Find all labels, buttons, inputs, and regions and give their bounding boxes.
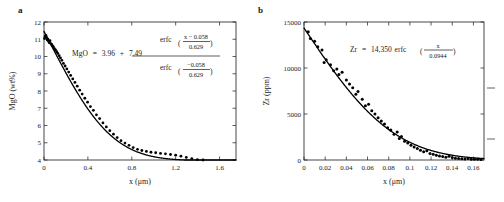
data-point — [159, 152, 162, 155]
tick-label: 0.02 — [319, 164, 332, 172]
panel-b-equation: Zr = 14,350 erfc ( x 0.0944 ) — [350, 42, 456, 59]
tick-label: 10 — [34, 53, 42, 61]
data-point — [429, 152, 432, 155]
data-point — [335, 67, 338, 70]
tick-label: 0 — [42, 164, 46, 172]
tick-label: 1.6 — [215, 164, 224, 172]
panel-a-eq-num-paren-close: ) — [210, 39, 213, 48]
data-point — [65, 68, 68, 71]
panel-b-frame — [304, 22, 484, 160]
data-point — [448, 155, 451, 158]
data-point — [307, 30, 310, 33]
panel-a-eq-den-bottom: 0.629 — [189, 71, 203, 78]
data-point — [377, 116, 380, 119]
data-point — [406, 141, 409, 144]
data-point — [62, 62, 65, 65]
tick-label: 7 — [38, 105, 42, 113]
panel-b-eq-lhs: Zr = 14,350 erfc — [350, 45, 407, 54]
data-point — [457, 157, 460, 160]
panel-a-eq-den-top: −0.058 — [187, 61, 205, 68]
panel-b-eq-paren-close: ) — [453, 47, 456, 56]
data-point — [309, 37, 312, 40]
panel-a-eq-lhs: MgO = 3.96 + 7.49 — [72, 49, 142, 58]
data-point — [351, 86, 354, 89]
data-point — [83, 97, 86, 100]
data-point — [116, 136, 119, 139]
tick-label: 0.06 — [361, 164, 374, 172]
data-point — [467, 157, 470, 160]
data-point — [325, 58, 328, 61]
data-point — [71, 78, 74, 81]
data-point — [60, 59, 63, 62]
tick-label: 0.14 — [446, 164, 459, 172]
panel-a-xticklabels: 00.40.81.21.6 — [42, 164, 224, 172]
data-point — [145, 150, 148, 153]
data-point — [438, 155, 441, 158]
data-point — [345, 78, 348, 81]
data-point — [413, 146, 416, 149]
figure-container: a 00.40.81.21.6 456789101112 x (μm) MgO … — [0, 0, 504, 202]
panel-b-xticks — [304, 22, 473, 160]
tick-label: 12 — [34, 19, 42, 27]
data-point — [444, 156, 447, 159]
tick-label: 10000 — [284, 65, 302, 73]
data-point — [321, 49, 324, 52]
panel-a-eq-den-fn: erfc — [160, 63, 172, 72]
data-point — [393, 133, 396, 136]
data-point — [313, 40, 316, 43]
data-point — [460, 157, 463, 160]
data-point — [329, 63, 332, 66]
data-point — [332, 69, 335, 72]
tick-label: 0.8 — [127, 164, 136, 172]
panel-b-eq-num-top: x — [436, 42, 440, 49]
data-point — [202, 159, 205, 162]
data-point — [169, 153, 172, 156]
data-point — [323, 61, 326, 64]
panel-b-yticks — [304, 22, 484, 160]
data-point — [403, 140, 406, 143]
data-point — [164, 152, 167, 155]
tick-label: 0.08 — [383, 164, 396, 172]
panel-b-eq-num-bottom: 0.0944 — [429, 52, 447, 59]
data-point — [476, 158, 479, 161]
panel-a-plot: 00.40.81.21.6 456789101112 x (μm) MgO (w… — [0, 0, 252, 202]
data-point — [86, 101, 89, 104]
panel-a-eq-num-bottom: 0.629 — [189, 43, 203, 50]
data-point — [432, 153, 435, 156]
data-point — [416, 147, 419, 150]
tick-label: 0.12 — [425, 164, 438, 172]
data-point — [64, 65, 67, 68]
data-point — [396, 130, 399, 133]
panel-a-yticks — [44, 22, 236, 160]
data-point — [473, 158, 476, 161]
tick-label: 8 — [38, 88, 42, 96]
data-point — [383, 123, 386, 126]
panel-a-xlabel: x (μm) — [129, 177, 151, 186]
data-point — [364, 104, 367, 107]
data-point — [470, 158, 473, 161]
tick-label: 0.4 — [84, 164, 93, 172]
data-point — [348, 83, 351, 86]
data-point — [316, 45, 319, 48]
data-point — [357, 90, 360, 93]
panel-b-eq-paren-open: ( — [420, 47, 423, 56]
tick-label: 0 — [298, 157, 302, 165]
data-point — [150, 151, 153, 154]
tick-label: 9 — [38, 70, 42, 78]
data-point — [95, 113, 98, 116]
data-point — [74, 81, 77, 84]
data-point — [370, 109, 373, 112]
data-point — [49, 39, 52, 42]
panel-a-equation: MgO = 3.96 + 7.49 erfc ( x − 0.058 0.629… — [72, 33, 220, 78]
data-point — [425, 149, 428, 152]
tick-label: 0.04 — [340, 164, 353, 172]
data-point — [380, 119, 383, 122]
data-point — [422, 150, 425, 153]
data-point — [337, 73, 340, 76]
data-point — [180, 155, 183, 158]
data-point — [174, 154, 177, 157]
data-point — [112, 133, 115, 136]
data-point — [451, 156, 454, 159]
data-point — [373, 113, 376, 116]
data-point — [341, 71, 344, 74]
